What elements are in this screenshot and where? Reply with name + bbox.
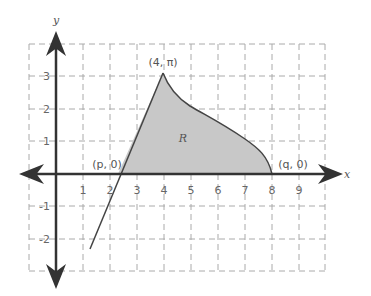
svg-text:3: 3 [43,70,50,83]
svg-text:8: 8 [269,184,276,197]
svg-text:1: 1 [80,184,87,197]
y-tick-labels: 3 2 1 -1 -2 [39,70,50,246]
y-axis-label: y [52,14,60,27]
region-label: R [178,132,187,145]
svg-text:-1: -1 [39,200,50,213]
svg-text:5: 5 [188,184,195,197]
svg-text:6: 6 [215,184,222,197]
svg-text:4: 4 [161,184,168,197]
graph: y x 1 2 3 4 5 6 7 8 9 3 2 1 -1 -2 (4, π)… [0,0,371,296]
p-label: (p, 0) [92,158,122,171]
svg-text:-2: -2 [39,233,50,246]
svg-text:3: 3 [134,184,141,197]
svg-text:9: 9 [296,184,303,197]
x-tick-labels: 1 2 3 4 5 6 7 8 9 [80,184,303,197]
x-axis-label: x [344,168,351,181]
svg-text:2: 2 [107,184,114,197]
svg-text:1: 1 [43,135,50,148]
q-label: (q, 0) [278,158,308,171]
region-r [118,73,272,174]
svg-text:2: 2 [43,103,50,116]
svg-text:7: 7 [242,184,249,197]
peak-label: (4, π) [148,56,177,69]
